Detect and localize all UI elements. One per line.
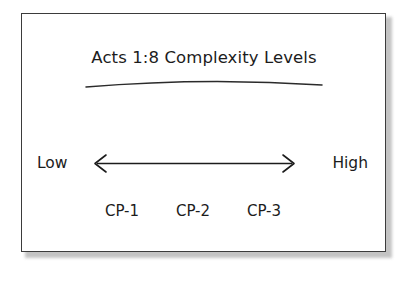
title-underline-stroke	[84, 74, 324, 90]
complexity-level-cp-3: CP-3	[247, 198, 281, 224]
double-headed-arrow-icon	[87, 151, 302, 175]
diagram-title: Acts 1:8 Complexity Levels	[0, 48, 408, 67]
scale-label-low: Low	[37, 149, 68, 177]
scale-label-high: High	[332, 149, 368, 177]
complexity-level-cp-1: CP-1	[105, 198, 139, 224]
complexity-level-labels: CP-1 CP-2 CP-3	[21, 198, 386, 224]
complexity-level-cp-2: CP-2	[176, 198, 210, 224]
diagram-canvas: Acts 1:8 Complexity Levels Low High CP-1…	[0, 0, 408, 284]
complexity-scale: Low High	[21, 149, 386, 177]
